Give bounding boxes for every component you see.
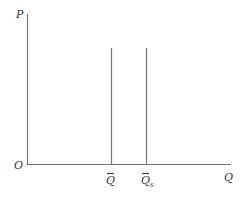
q-s-bar-text: Q (141, 175, 150, 186)
q-s-bar-label: Qs (141, 175, 154, 189)
origin-label: O (14, 160, 23, 171)
y-axis-label: P (16, 9, 23, 20)
x-axis-label: Q (224, 172, 233, 183)
q-bar-text: Q (106, 175, 115, 186)
q-bar-label: Q (106, 175, 115, 186)
diagram-canvas (0, 0, 240, 197)
q-s-subscript: s (150, 181, 154, 189)
